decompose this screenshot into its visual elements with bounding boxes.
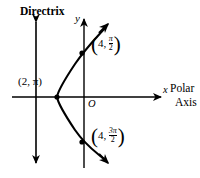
point-vertex <box>54 94 59 99</box>
upper-theta-denominator: 2 <box>109 43 113 52</box>
polar-axis-label-line2: Axis <box>175 97 197 109</box>
point-lower <box>79 139 84 144</box>
directrix-label: Directrix <box>20 6 64 18</box>
lower-theta-denominator: 2 <box>109 135 117 144</box>
upper-theta-numerator: π <box>109 35 113 43</box>
open-paren: ( <box>91 36 98 52</box>
point-upper <box>79 50 84 55</box>
x-axis-label: x <box>163 85 168 96</box>
open-paren: ( <box>91 128 98 144</box>
close-paren: ) <box>114 36 121 52</box>
vertex-point-label: (2, π) <box>18 76 42 87</box>
lower-point-theta: 3π 2 <box>108 127 118 145</box>
lower-theta-numerator: 3π <box>109 127 117 135</box>
close-paren: ) <box>118 128 125 144</box>
origin-label: O <box>88 99 96 110</box>
polar-axis-label-line1: Polar <box>170 83 194 95</box>
y-axis-label: y <box>75 13 80 24</box>
polar-parabola-figure: Directrix y x Polar Axis O (2, π) ( 4 , … <box>0 0 200 178</box>
upper-point-label: ( 4 , π 2 ) <box>91 35 121 53</box>
lower-point-label: ( 4 , 3π 2 ) <box>91 127 125 145</box>
